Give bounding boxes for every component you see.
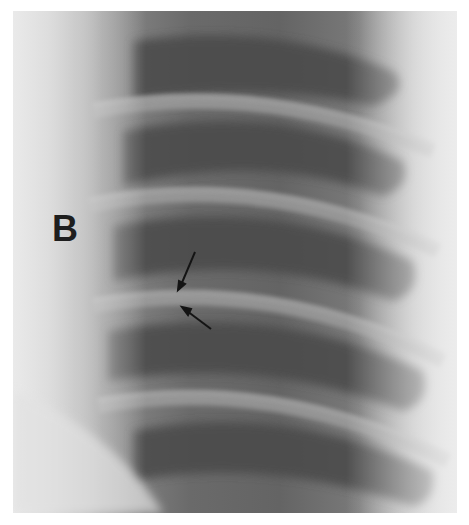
radiograph-image: B [13,11,457,513]
panel-label: B [52,211,78,247]
radiograph-illustration [13,11,457,513]
